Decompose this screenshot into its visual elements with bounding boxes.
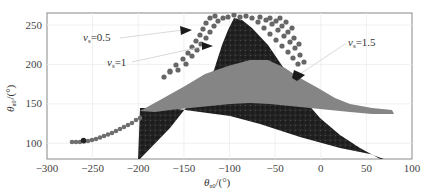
annotation-vs1: vs=1 <box>107 56 126 70</box>
y-axis-ticks: 100 150 200 250 <box>26 19 43 149</box>
svg-text:200: 200 <box>26 58 43 70</box>
svg-text:250: 250 <box>26 19 43 31</box>
x-axis-ticks: −300 −250 −200 −150 −100 −50 0 50 100 <box>36 162 421 174</box>
svg-text:−50: −50 <box>266 162 284 174</box>
svg-text:100: 100 <box>26 137 43 149</box>
svg-text:−250: −250 <box>81 162 104 174</box>
svg-text:−300: −300 <box>36 162 59 174</box>
svg-text:−100: −100 <box>218 162 241 174</box>
annotation-vs15: vs=1.5 <box>348 36 376 50</box>
isolated-point <box>81 138 86 143</box>
x-axis-label: θn0/(°) <box>204 176 231 189</box>
svg-text:−200: −200 <box>127 162 150 174</box>
svg-text:100: 100 <box>404 162 421 174</box>
svg-text:−150: −150 <box>173 162 196 174</box>
chart: vs=0.5 vs=1 vs=1.5 100 150 200 250 −300 … <box>0 0 430 190</box>
svg-text:150: 150 <box>26 97 43 109</box>
y-axis-label: θn0'/(°) <box>4 84 17 112</box>
annotation-vs05: vs=0.5 <box>83 31 111 45</box>
svg-text:50: 50 <box>361 162 373 174</box>
svg-text:0: 0 <box>318 162 324 174</box>
